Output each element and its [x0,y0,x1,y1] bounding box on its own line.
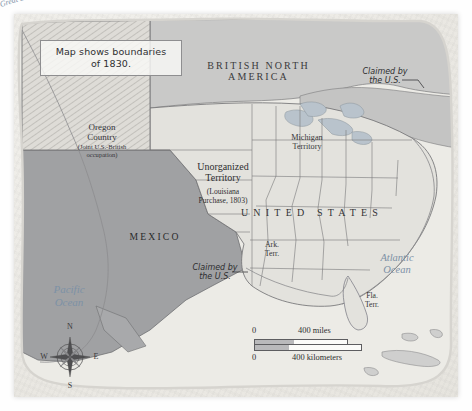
compass-rose: N E S W [38,322,102,392]
scale-miles-label: 400 miles [298,326,331,335]
caption-line-1: Map shows boundaries [56,46,167,57]
label-unorganized-title: Unorganized Territory [197,161,248,183]
label-oregon-subtitle: (Joint U.S.-British occupation) [58,143,146,159]
label-arkansas-territory: Ark. Terr. [252,241,292,258]
compass-east-label: E [91,352,101,361]
label-unorganized-subtitle: (Louisiana Purchase, 1803) [168,187,278,206]
map-screenshot: Map shows boundaries of 1830. BRITISH NO… [0,0,472,411]
label-mexico: MEXICO [118,232,192,243]
compass-west-label: W [39,352,49,361]
label-atlantic-ocean: Atlantic Ocean [360,252,434,276]
label-pacific-ocean: Pacific Ocean [34,283,104,309]
caption-text: Map shows boundaries of 1830. [56,46,167,70]
scale-kilometers-bar [254,344,362,351]
label-oregon-country: Oregon Country (Joint U.S.-British occup… [58,112,146,169]
scale-bar: 0 400 miles 0 400 kilometers [252,326,372,366]
label-claimed-northeast: Claimed by the U.S. [352,68,418,86]
scale-kilometers-label: 400 kilometers [292,353,342,362]
label-oregon-title: Oregon Country [87,122,117,142]
compass-south-label: S [65,381,75,390]
label-florida-territory: Fla. Terr. [355,292,389,309]
label-michigan-territory: Michigan Territory [272,133,342,151]
compass-north-label: N [65,322,75,331]
caption-line-2: of 1830. [91,58,131,69]
scale-miles-zero: 0 [252,326,256,335]
scale-kilometers-zero: 0 [252,353,256,362]
label-united-states: UNITED STATES [232,207,392,218]
label-claimed-texas: Claimed by the U.S. [182,264,248,282]
label-british-north-america: BRITISH NORTH AMERICA [196,60,321,82]
caption-box: Map shows boundaries of 1830. [40,40,182,76]
